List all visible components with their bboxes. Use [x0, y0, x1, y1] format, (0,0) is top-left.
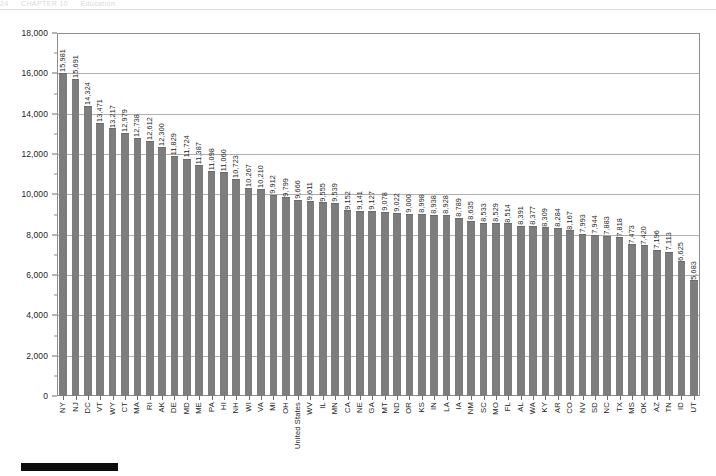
- bar[interactable]: [84, 106, 92, 396]
- bar-slot[interactable]: 8,998: [416, 33, 428, 396]
- bar[interactable]: [270, 195, 278, 396]
- bar[interactable]: [653, 250, 661, 396]
- bar-slot[interactable]: 8,529: [490, 33, 502, 396]
- bar-slot[interactable]: 11,724: [181, 33, 193, 396]
- bar[interactable]: [492, 223, 500, 396]
- bar-slot[interactable]: 9,539: [329, 33, 341, 396]
- bar-slot[interactable]: 8,377: [527, 33, 539, 396]
- bar-slot[interactable]: 9,666: [292, 33, 304, 396]
- bar[interactable]: [443, 215, 451, 396]
- bar-slot[interactable]: 7,944: [589, 33, 601, 396]
- bar[interactable]: [171, 156, 179, 396]
- bar-slot[interactable]: 7,473: [626, 33, 638, 396]
- bar[interactable]: [356, 211, 364, 396]
- bar-slot[interactable]: 9,912: [267, 33, 279, 396]
- bar[interactable]: [368, 211, 376, 396]
- bar-slot[interactable]: 10,723: [230, 33, 242, 396]
- bar-slot[interactable]: 7,113: [663, 33, 675, 396]
- bar-slot[interactable]: 8,533: [477, 33, 489, 396]
- bar[interactable]: [59, 73, 67, 396]
- bar-slot[interactable]: 12,300: [156, 33, 168, 396]
- bar-slot[interactable]: 12,612: [144, 33, 156, 396]
- bar[interactable]: [134, 138, 142, 396]
- bar[interactable]: [430, 215, 438, 396]
- bar-slot[interactable]: 9,000: [403, 33, 415, 396]
- bar[interactable]: [641, 245, 649, 396]
- bar-slot[interactable]: 8,938: [428, 33, 440, 396]
- bar[interactable]: [480, 223, 488, 396]
- bar[interactable]: [603, 236, 611, 396]
- bar-slot[interactable]: 9,152: [341, 33, 353, 396]
- bar[interactable]: [566, 230, 574, 396]
- bar-slot[interactable]: 15,981: [57, 33, 69, 396]
- bar[interactable]: [455, 218, 463, 396]
- bar-slot[interactable]: 8,514: [502, 33, 514, 396]
- bar[interactable]: [517, 226, 525, 396]
- bar-slot[interactable]: 9,799: [280, 33, 292, 396]
- bar-slot[interactable]: 8,928: [440, 33, 452, 396]
- bar[interactable]: [591, 235, 599, 396]
- bar[interactable]: [121, 133, 129, 396]
- bar[interactable]: [344, 210, 352, 396]
- bar[interactable]: [294, 200, 302, 396]
- bar[interactable]: [307, 201, 315, 396]
- bar[interactable]: [418, 214, 426, 396]
- bar-slot[interactable]: 7,818: [613, 33, 625, 396]
- bar-slot[interactable]: 8,391: [515, 33, 527, 396]
- bar[interactable]: [208, 171, 216, 396]
- bar[interactable]: [109, 128, 117, 396]
- bar-slot[interactable]: 7,420: [638, 33, 650, 396]
- bar[interactable]: [393, 213, 401, 396]
- bar-slot[interactable]: 8,284: [552, 33, 564, 396]
- bar[interactable]: [529, 226, 537, 396]
- bar[interactable]: [690, 280, 698, 396]
- bar[interactable]: [678, 261, 686, 396]
- bar[interactable]: [220, 172, 228, 396]
- bar[interactable]: [381, 212, 389, 396]
- bar-slot[interactable]: 8,309: [539, 33, 551, 396]
- bar[interactable]: [331, 203, 339, 396]
- bar-slot[interactable]: 9,127: [366, 33, 378, 396]
- bar[interactable]: [467, 221, 475, 396]
- bar[interactable]: [554, 228, 562, 396]
- bar-slot[interactable]: 14,324: [82, 33, 94, 396]
- bar-slot[interactable]: 12,738: [131, 33, 143, 396]
- bar-slot[interactable]: 15,691: [69, 33, 81, 396]
- bar-slot[interactable]: 11,060: [218, 33, 230, 396]
- bar-slot[interactable]: 8,635: [465, 33, 477, 396]
- bar[interactable]: [406, 214, 414, 397]
- bar[interactable]: [72, 79, 80, 396]
- bar-slot[interactable]: 9,022: [391, 33, 403, 396]
- bar[interactable]: [628, 244, 636, 396]
- bar[interactable]: [319, 202, 327, 396]
- bar-slot[interactable]: 10,210: [255, 33, 267, 396]
- bar[interactable]: [257, 189, 265, 396]
- bar[interactable]: [616, 237, 624, 396]
- bar[interactable]: [158, 147, 166, 396]
- bar-slot[interactable]: 7,883: [601, 33, 613, 396]
- bar-slot[interactable]: 9,078: [379, 33, 391, 396]
- bar-slot[interactable]: 11,098: [205, 33, 217, 396]
- bar-slot[interactable]: 6,625: [675, 33, 687, 396]
- bar-slot[interactable]: 9,555: [317, 33, 329, 396]
- bar-slot[interactable]: 13,217: [106, 33, 118, 396]
- bar-slot[interactable]: 9,611: [304, 33, 316, 396]
- bar[interactable]: [665, 252, 673, 396]
- bar-slot[interactable]: 12,979: [119, 33, 131, 396]
- bar-slot[interactable]: 11,387: [193, 33, 205, 396]
- bar-slot[interactable]: 9,141: [354, 33, 366, 396]
- bar[interactable]: [542, 227, 550, 396]
- bar[interactable]: [96, 123, 104, 396]
- bar-slot[interactable]: 8,789: [453, 33, 465, 396]
- bar-slot[interactable]: 7,993: [576, 33, 588, 396]
- bar-slot[interactable]: 10,267: [242, 33, 254, 396]
- bar[interactable]: [146, 141, 154, 396]
- bar-slot[interactable]: 13,471: [94, 33, 106, 396]
- bar[interactable]: [195, 165, 203, 396]
- bar[interactable]: [232, 179, 240, 396]
- bar[interactable]: [504, 223, 512, 396]
- bar[interactable]: [579, 234, 587, 396]
- bar[interactable]: [245, 188, 253, 396]
- bar[interactable]: [183, 159, 191, 396]
- bar-slot[interactable]: 7,196: [651, 33, 663, 396]
